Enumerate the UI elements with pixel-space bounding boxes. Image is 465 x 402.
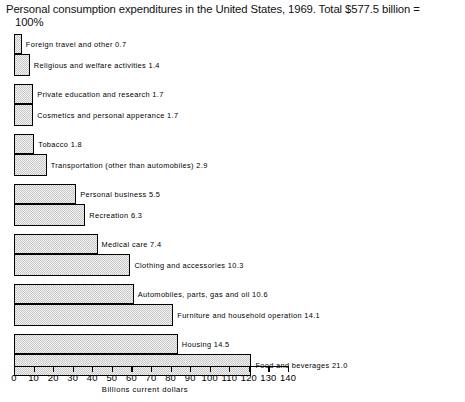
x-tick-label-100: 100 — [202, 372, 218, 383]
x-tick-label-90: 90 — [185, 372, 196, 383]
x-tick-label-20: 20 — [48, 372, 59, 383]
bar-9 — [14, 254, 130, 276]
x-tick-label-130: 130 — [260, 372, 276, 383]
bar-3 — [14, 104, 33, 126]
bar-8 — [14, 234, 98, 254]
bar-label-3: Cosmetics and personal apperance 1.7 — [37, 111, 178, 120]
bar-label-11: Furniture and household operation 14.1 — [177, 311, 320, 320]
x-axis-title: Billions current dollars — [0, 385, 290, 394]
plot-area: Foreign travel and other 0.7Religious an… — [0, 34, 465, 364]
bar-label-2: Private education and research 1.7 — [37, 90, 164, 99]
x-tick-label-30: 30 — [67, 372, 78, 383]
bar-5 — [14, 154, 47, 176]
x-tick-label-70: 70 — [146, 372, 157, 383]
bar-label-9: Clothing and accessories 10.3 — [134, 261, 243, 270]
bar-7 — [14, 204, 85, 226]
x-tick-label-10: 10 — [28, 372, 39, 383]
bar-11 — [14, 304, 173, 326]
x-tick-label-50: 50 — [106, 372, 117, 383]
bar-label-8: Medical care 7.4 — [102, 240, 162, 249]
bar-label-0: Foreign travel and other 0.7 — [26, 40, 127, 49]
bar-2 — [14, 84, 33, 104]
bar-4 — [14, 134, 34, 154]
bar-10 — [14, 284, 134, 304]
x-tick-label-110: 110 — [222, 372, 238, 383]
bar-label-12: Housing 14.5 — [182, 340, 230, 349]
bar-label-10: Automobiles, parts, gas and oil 10.6 — [138, 290, 268, 299]
bar-label-1: Religious and welfare activities 1.4 — [34, 61, 160, 70]
bar-12 — [14, 334, 178, 354]
chart-title-line2: 100% — [6, 16, 461, 29]
bar-label-6: Personal business 5.5 — [80, 190, 160, 199]
x-tick-label-80: 80 — [165, 372, 176, 383]
bar-0 — [14, 34, 22, 54]
chart-root: Personal consumption expenditures in the… — [0, 0, 465, 402]
bar-label-7: Recreation 6.3 — [89, 211, 142, 220]
x-tick-label-0: 0 — [11, 372, 16, 383]
bar-label-4: Tobacco 1.8 — [38, 140, 82, 149]
x-tick-label-140: 140 — [280, 372, 296, 383]
bar-6 — [14, 184, 76, 204]
x-tick-label-40: 40 — [87, 372, 98, 383]
bar-1 — [14, 54, 30, 76]
x-tick-label-120: 120 — [241, 372, 257, 383]
x-tick-label-60: 60 — [126, 372, 137, 383]
chart-title-line1: Personal consumption expenditures in the… — [6, 3, 420, 15]
chart-title: Personal consumption expenditures in the… — [6, 3, 461, 30]
bar-label-5: Transportation (other than automobiles) … — [51, 161, 208, 170]
